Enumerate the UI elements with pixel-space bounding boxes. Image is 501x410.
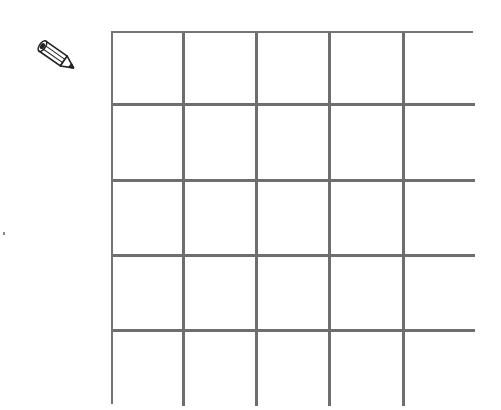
grid-cell[interactable] bbox=[113, 182, 185, 257]
grid-cell[interactable] bbox=[185, 332, 258, 406]
grid-cell[interactable] bbox=[405, 33, 475, 106]
grid-cell[interactable] bbox=[405, 182, 475, 257]
grid-cell[interactable] bbox=[405, 332, 475, 406]
grid-cell[interactable] bbox=[331, 257, 405, 332]
grid-cell[interactable] bbox=[258, 33, 331, 106]
puzzle-grid bbox=[111, 31, 473, 404]
grid-cell[interactable] bbox=[185, 182, 258, 257]
grid-cell[interactable] bbox=[331, 106, 405, 182]
stray-dot bbox=[3, 232, 5, 235]
grid-cell[interactable] bbox=[258, 257, 331, 332]
grid-cell[interactable] bbox=[258, 106, 331, 182]
grid-cell[interactable] bbox=[331, 33, 405, 106]
grid-cell[interactable] bbox=[331, 332, 405, 406]
grid-cell[interactable] bbox=[113, 106, 185, 182]
grid-cell[interactable] bbox=[405, 106, 475, 182]
grid-cell[interactable] bbox=[185, 257, 258, 332]
grid-cell[interactable] bbox=[113, 332, 185, 406]
grid-cell[interactable] bbox=[185, 106, 258, 182]
grid-cell[interactable] bbox=[113, 257, 185, 332]
grid-cell[interactable] bbox=[113, 33, 185, 106]
grid-cell[interactable] bbox=[331, 182, 405, 257]
grid-cell[interactable] bbox=[258, 182, 331, 257]
grid-cell[interactable] bbox=[405, 257, 475, 332]
pencil-icon[interactable] bbox=[35, 40, 81, 74]
grid-cell[interactable] bbox=[185, 33, 258, 106]
grid-cell[interactable] bbox=[258, 332, 331, 406]
